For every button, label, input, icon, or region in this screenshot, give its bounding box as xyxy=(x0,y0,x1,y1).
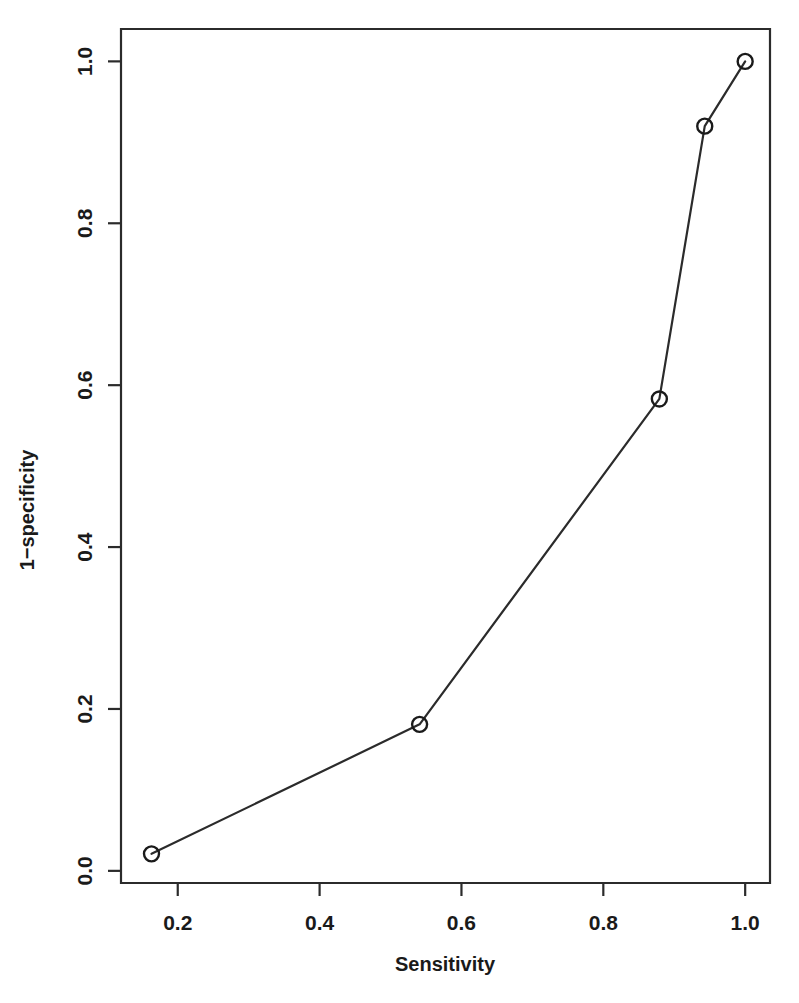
y-tick-label-0.8: 0.8 xyxy=(73,208,96,238)
y-tick-label-0.2: 0.2 xyxy=(73,694,96,723)
y-tick-label-0.6: 0.6 xyxy=(73,371,96,400)
x-axis-ticks xyxy=(178,883,745,896)
x-tick-label-0.2: 0.2 xyxy=(163,911,192,934)
y-axis-title: 1−specificity xyxy=(16,449,38,571)
y-tick-label-1.0: 1.0 xyxy=(73,47,96,76)
y-axis-tick-labels: 0.00.20.40.60.81.0 xyxy=(73,47,96,886)
y-tick-label-0.4: 0.4 xyxy=(73,532,96,562)
x-tick-label-0.8: 0.8 xyxy=(589,911,619,934)
y-axis-ticks xyxy=(108,61,121,870)
x-tick-label-1.0: 1.0 xyxy=(731,911,760,934)
x-axis-title: Sensitivity xyxy=(395,953,496,975)
x-tick-label-0.4: 0.4 xyxy=(305,911,335,934)
x-axis-tick-labels: 0.20.40.60.81.0 xyxy=(163,911,760,934)
y-tick-label-0.0: 0.0 xyxy=(73,856,96,885)
plot-frame xyxy=(121,29,770,883)
roc-chart-canvas: 0.00.20.40.60.81.0 0.20.40.60.81.0 Sensi… xyxy=(0,0,799,1003)
roc-figure: 0.00.20.40.60.81.0 0.20.40.60.81.0 Sensi… xyxy=(0,0,799,1003)
roc-data-points xyxy=(144,54,753,861)
x-tick-label-0.6: 0.6 xyxy=(447,911,476,934)
roc-curve xyxy=(152,61,746,853)
